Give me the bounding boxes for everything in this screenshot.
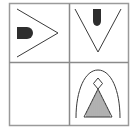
puzzle-canvas (0, 0, 135, 129)
empty-answer-slot[interactable] (11, 64, 68, 124)
d-shape-left-icon (17, 27, 33, 39)
d-shape-top-icon (93, 9, 101, 26)
cell-bottom-left-empty[interactable] (11, 64, 68, 124)
analogy-puzzle-grid (0, 0, 135, 129)
